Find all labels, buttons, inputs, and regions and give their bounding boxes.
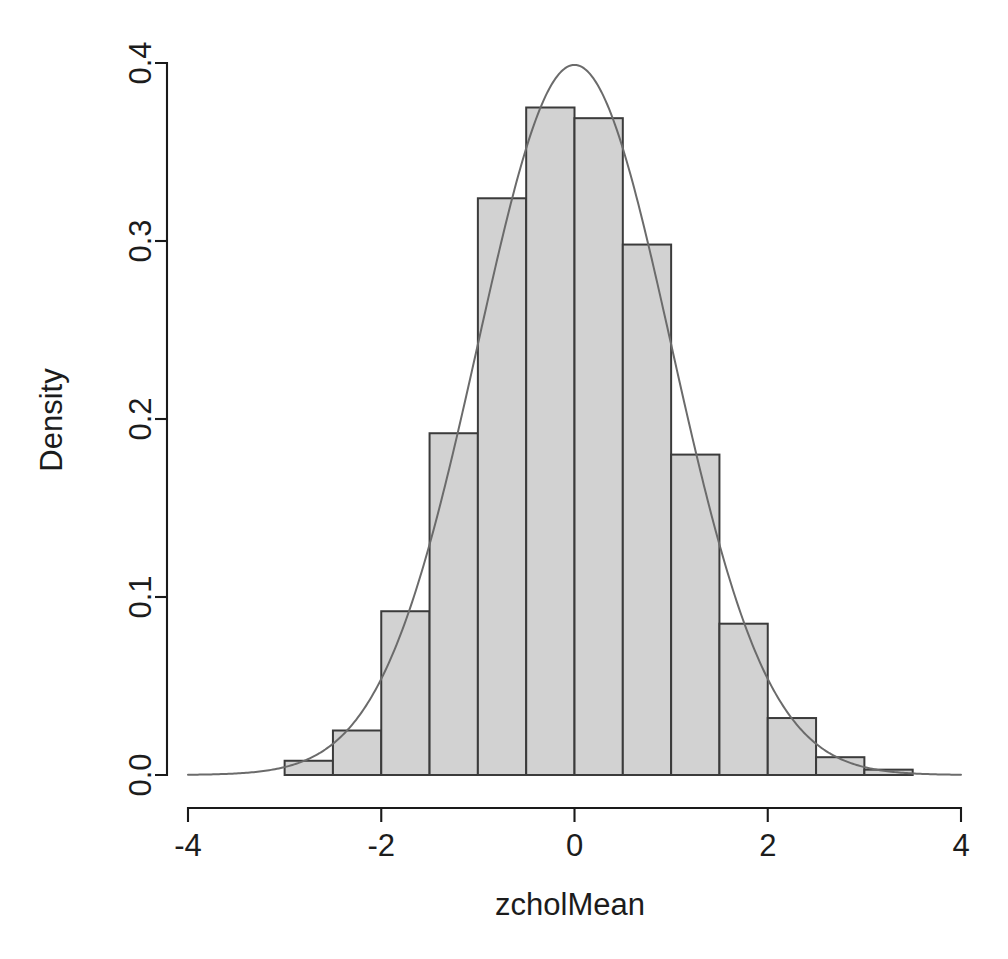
x-axis-tick-label: 4 xyxy=(952,828,969,863)
histogram-bar xyxy=(623,245,671,775)
y-axis-tick-label: 0.2 xyxy=(123,397,158,440)
histogram-bar xyxy=(526,108,574,776)
histogram-plot-page: 0.00.10.20.30.4 -4-2024 zcholMean Densit… xyxy=(0,0,1008,959)
histogram-bar xyxy=(285,761,333,775)
x-axis-tick-label: -4 xyxy=(174,828,202,863)
y-axis-title: Density xyxy=(34,368,69,472)
x-axis-title: zcholMean xyxy=(495,887,645,922)
histogram-chart: 0.00.10.20.30.4 -4-2024 zcholMean Densit… xyxy=(0,0,1008,959)
y-axis-tick-label: 0.4 xyxy=(123,41,158,84)
histogram-bar xyxy=(671,455,719,775)
y-axis-tick-labels: 0.00.10.20.30.4 xyxy=(123,41,158,796)
x-axis-tick-labels: -4-2024 xyxy=(174,828,969,863)
histogram-bar xyxy=(381,611,429,775)
histogram-bar xyxy=(768,718,816,775)
histogram-bar xyxy=(430,433,478,775)
histogram-bar xyxy=(575,118,623,775)
histogram-bars xyxy=(285,108,913,776)
y-axis-tick-label: 0.1 xyxy=(123,575,158,618)
x-axis-tick-label: 2 xyxy=(759,828,776,863)
histogram-bar xyxy=(719,624,767,775)
y-axis-tick-label: 0.3 xyxy=(123,219,158,262)
y-axis-tick-label: 0.0 xyxy=(123,753,158,796)
x-axis-tick-label: -2 xyxy=(367,828,395,863)
histogram-bar xyxy=(478,198,526,775)
x-axis-ticks xyxy=(381,808,768,822)
x-axis-tick-label: 0 xyxy=(566,828,583,863)
